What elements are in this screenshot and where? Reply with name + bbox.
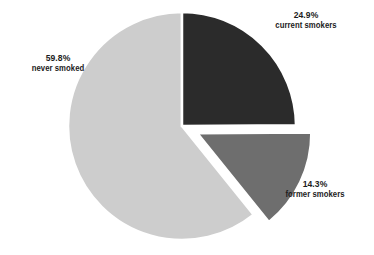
pie-label-former-smokers-category: former smokers xyxy=(262,189,368,199)
pie-chart: 24.9% current smokers 59.8% never smoked… xyxy=(0,0,374,255)
pie-label-current-smokers-percent: 24.9% xyxy=(253,9,359,20)
pie-label-former-smokers: 14.3% former smokers xyxy=(262,178,368,199)
pie-label-former-smokers-percent: 14.3% xyxy=(262,178,368,189)
pie-label-current-smokers-category: current smokers xyxy=(253,20,359,30)
pie-chart-graphic xyxy=(0,0,374,255)
pie-label-never-smoked-percent: 59.8% xyxy=(9,52,106,63)
pie-label-never-smoked-category: never smoked xyxy=(9,63,106,73)
pie-label-current-smokers: 24.9% current smokers xyxy=(253,9,359,30)
pie-label-never-smoked: 59.8% never smoked xyxy=(9,52,106,73)
